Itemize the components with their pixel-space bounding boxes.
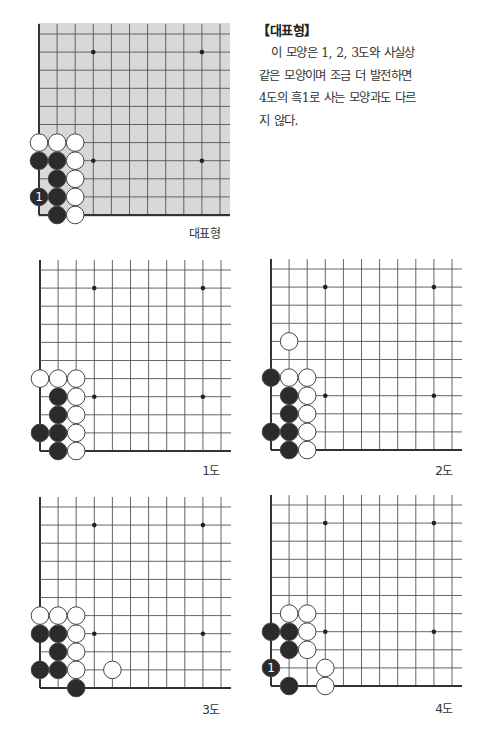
black-stone	[67, 679, 85, 697]
black-stone	[49, 388, 67, 406]
white-stone	[66, 152, 84, 170]
white-stone	[280, 333, 298, 351]
black-stone	[262, 623, 280, 641]
black-stone	[280, 641, 298, 659]
article-text: 【대표형】 이 모양은 1, 2, 3도와 사실상 같은 모양이며 조금 더 발…	[259, 20, 469, 132]
article-paragraph: 이 모양은 1, 2, 3도와 사실상 같은 모양이며 조금 더 발전하면 4도…	[259, 42, 469, 132]
paragraph-line-2: 같은 모양이며 조금 더 발전하면	[259, 65, 469, 88]
star-point	[92, 523, 97, 528]
black-stone	[49, 661, 67, 679]
white-stone	[30, 134, 48, 152]
caption-diagram-1: 1도	[160, 461, 220, 478]
board-grid: 1	[261, 493, 464, 696]
black-stone	[49, 424, 67, 442]
black-stone	[48, 188, 66, 206]
star-point	[201, 286, 206, 291]
board-grid	[30, 258, 233, 461]
star-point	[323, 521, 328, 526]
go-board-diagram-4: 1	[261, 493, 464, 696]
star-point	[91, 50, 96, 55]
star-point	[200, 158, 205, 163]
go-board-diagram-3	[30, 495, 233, 698]
star-point	[201, 631, 206, 636]
black-stone	[48, 152, 66, 170]
star-point	[201, 523, 206, 528]
white-stone	[66, 188, 84, 206]
black-stone	[49, 406, 67, 424]
black-stone	[30, 152, 48, 170]
black-stone	[48, 206, 66, 224]
star-point	[92, 631, 97, 636]
go-board-diagram-2	[261, 257, 464, 460]
black-stone	[280, 441, 298, 459]
star-point	[201, 394, 206, 399]
caption-representative: 대표형	[160, 224, 220, 241]
black-stone	[48, 170, 66, 188]
white-stone	[67, 607, 85, 625]
star-point	[92, 394, 97, 399]
star-point	[200, 50, 205, 55]
white-stone	[49, 607, 67, 625]
white-stone	[66, 206, 84, 224]
white-stone	[67, 424, 85, 442]
black-stone	[49, 643, 67, 661]
black-stone: 1	[30, 188, 48, 206]
white-stone	[49, 370, 67, 388]
white-stone	[67, 625, 85, 643]
white-stone	[104, 661, 122, 679]
star-point	[323, 629, 328, 634]
star-point	[92, 286, 97, 291]
white-stone	[67, 661, 85, 679]
caption-diagram-2: 2도	[393, 461, 453, 478]
white-stone	[280, 369, 298, 387]
paragraph-line-1-text: 이 모양은 1, 2, 3도와 사실상	[271, 45, 415, 60]
white-stone	[67, 406, 85, 424]
white-stone	[66, 134, 84, 152]
white-stone	[67, 388, 85, 406]
article-heading: 【대표형】	[257, 20, 469, 39]
white-stone	[298, 423, 316, 441]
board-grid	[261, 257, 464, 460]
move-number-label: 1	[35, 190, 43, 204]
white-stone	[280, 605, 298, 623]
white-stone	[298, 387, 316, 405]
paragraph-line-1: 이 모양은 1, 2, 3도와 사실상	[259, 42, 469, 65]
board-grid	[30, 495, 233, 698]
white-stone	[67, 370, 85, 388]
go-board-representative: 1	[29, 22, 232, 225]
white-stone	[48, 134, 66, 152]
star-point	[432, 629, 437, 634]
caption-diagram-3: 3도	[160, 700, 220, 717]
white-stone	[317, 659, 335, 677]
white-stone	[66, 170, 84, 188]
paragraph-line-4: 지 않다.	[259, 110, 469, 133]
black-stone	[280, 423, 298, 441]
paragraph-line-3: 4도의 흑1로 사는 모양과도 다르	[259, 87, 469, 110]
star-point	[432, 285, 437, 290]
white-stone	[67, 643, 85, 661]
star-point	[432, 521, 437, 526]
move-number-label: 1	[267, 661, 275, 675]
black-stone	[280, 405, 298, 423]
black-stone	[31, 661, 49, 679]
black-stone	[49, 442, 67, 460]
white-stone	[298, 405, 316, 423]
caption-diagram-4: 4도	[393, 699, 453, 716]
white-stone	[67, 442, 85, 460]
star-point	[91, 158, 96, 163]
black-stone	[280, 623, 298, 641]
white-stone	[298, 641, 316, 659]
board-grid: 1	[29, 22, 232, 225]
black-stone	[262, 369, 280, 387]
black-stone	[31, 625, 49, 643]
black-stone	[280, 387, 298, 405]
white-stone	[31, 370, 49, 388]
white-stone	[317, 677, 335, 695]
black-stone	[31, 424, 49, 442]
black-stone	[280, 677, 298, 695]
black-stone: 1	[262, 659, 280, 677]
star-point	[323, 285, 328, 290]
black-stone	[49, 625, 67, 643]
go-board-diagram-1	[30, 258, 233, 461]
white-stone	[298, 605, 316, 623]
